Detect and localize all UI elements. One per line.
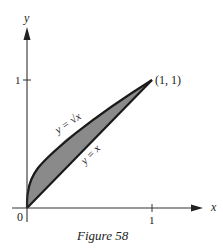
figure-caption: Figure 58 xyxy=(76,228,129,243)
origin-label: 0 xyxy=(17,210,23,224)
x-tick-label: 1 xyxy=(149,214,155,226)
y-axis-label: y xyxy=(23,11,30,25)
point-label: (1, 1) xyxy=(155,73,181,87)
figure-canvas: x y 0 1 1 (1, 1) y = √x y = x Figure 58 xyxy=(0,0,223,250)
y-axis-arrow-icon xyxy=(24,27,31,40)
line-y-equals-x xyxy=(27,80,152,208)
x-axis-label: x xyxy=(210,200,217,214)
x-axis-arrow-icon xyxy=(191,205,203,212)
y-tick-label: 1 xyxy=(15,74,21,86)
